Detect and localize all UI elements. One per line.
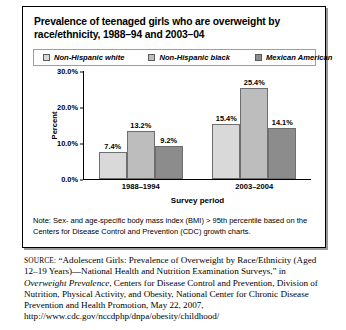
source-label: SOURCE: [24, 256, 56, 265]
x-tick-label: 1988–1994 [84, 182, 198, 191]
figure-page: Prevalence of teenaged girls who are ove… [0, 0, 346, 330]
bar-value-label: 15.4% [216, 114, 237, 123]
legend-swatch-icon-non-hispanic-black [148, 54, 155, 61]
legend-item-non-hispanic-white: Non-Hispanic white [43, 53, 124, 62]
legend-swatch-icon-non-hispanic-white [43, 54, 50, 61]
y-tick-label: 30.0% [57, 67, 78, 76]
legend-item-non-hispanic-black: Non-Hispanic black [148, 53, 229, 62]
bar-value-label: 14.1% [272, 118, 293, 127]
chart-legend: Non-Hispanic white Non-Hispanic black Me… [33, 49, 316, 66]
figure-title: Prevalence of teenaged girls who are ove… [34, 16, 313, 41]
bar-non-hispanic-black-1988-1994: 13.2% [127, 131, 155, 179]
bar-non-hispanic-white-1988-1994: 7.4% [99, 152, 127, 179]
legend-label-non-hispanic-white: Non-Hispanic white [54, 53, 124, 62]
legend-label-non-hispanic-black: Non-Hispanic black [159, 53, 229, 62]
bar-value-label: 7.4% [104, 142, 121, 151]
figure-card: Prevalence of teenaged girls who are ove… [22, 6, 326, 248]
x-tick-label: 2003–2004 [198, 182, 312, 191]
bar-mexican-american-2003-2004: 14.1% [268, 128, 296, 179]
legend-item-mexican-american: Mexican American [255, 53, 332, 62]
figure-note: Note: Sex- and age-specific body mass in… [33, 216, 317, 237]
x-axis-line [83, 179, 311, 180]
y-tick-label: 0.0% [61, 175, 78, 184]
legend-label-mexican-american: Mexican American [266, 53, 332, 62]
bar-value-label: 13.2% [130, 121, 151, 130]
bar-mexican-american-1988-1994: 9.2% [155, 146, 183, 179]
bar-value-label: 9.2% [160, 136, 177, 145]
x-axis-tick-labels: 1988–1994 2003–2004 [84, 182, 311, 191]
chart-plot-area: Percent 30.0% 20.0% 10.0% 0.0% 7.4% 13.2… [33, 71, 316, 211]
y-axis-tick-labels: 30.0% 20.0% 10.0% 0.0% [45, 71, 83, 179]
y-tick-label: 10.0% [57, 139, 78, 148]
bar-value-label: 25.4% [244, 78, 265, 87]
bar-groups: 7.4% 13.2% 9.2% 15.4% 25.4% [84, 71, 311, 179]
bar-group-2003-2004: 15.4% 25.4% 14.1% [198, 71, 312, 179]
x-axis-title: Survey period [84, 196, 311, 205]
bar-group-1988-1994: 7.4% 13.2% 9.2% [84, 71, 198, 179]
bar-non-hispanic-white-2003-2004: 15.4% [212, 124, 240, 179]
bar-non-hispanic-black-2003-2004: 25.4% [240, 88, 268, 179]
source-publication-title: Overweight Prevalence [24, 278, 109, 288]
legend-swatch-icon-mexican-american [255, 54, 262, 61]
source-text-part1: “Adolescent Girls: Prevalence of Overwei… [24, 255, 316, 276]
figure-source: SOURCE: “Adolescent Girls: Prevalence of… [24, 255, 324, 323]
y-tick-label: 20.0% [57, 103, 78, 112]
